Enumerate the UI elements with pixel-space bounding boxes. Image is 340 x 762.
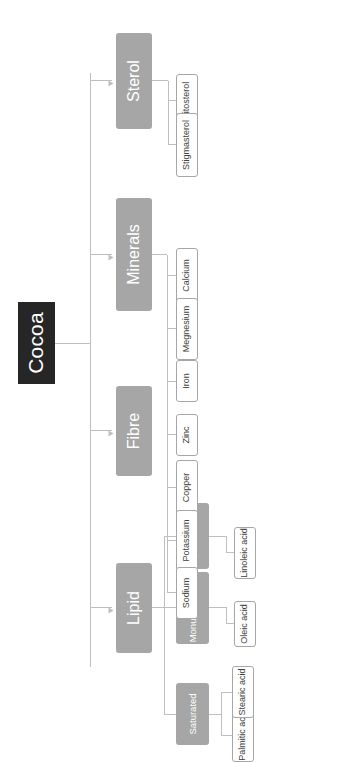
arrow-icon-minerals — [109, 255, 114, 261]
arrow-icon-sterol — [109, 81, 114, 87]
leaf-copper[interactable]: Copper — [176, 460, 198, 515]
connector-drop-polyunsaturated — [164, 536, 176, 537]
leaf-stigmasterol[interactable]: Stigmasterol — [176, 113, 198, 177]
connector-root-bus — [90, 73, 91, 667]
connector-drop-zinc — [167, 434, 176, 435]
connector-root-stem — [54, 343, 90, 344]
leaf-sodium[interactable]: Sodium — [176, 567, 198, 619]
connector-drop-palmitic — [221, 735, 232, 736]
node-sterol[interactable]: Sterol — [116, 33, 152, 129]
connector-polyunsaturated-stem — [209, 536, 226, 537]
connector-drop-stigmasterol — [168, 144, 176, 145]
leaf-oleic-acid-label: Oleic acid — [240, 604, 249, 644]
connector-lipid-stem — [152, 607, 164, 608]
leaf-zinc[interactable]: Zinc — [176, 414, 198, 456]
connector-monunsaturated-bus — [226, 607, 227, 624]
connector-drop-megnesium — [167, 328, 176, 329]
leaf-sodium-label: Sodium — [182, 578, 191, 609]
node-saturated-label: Saturated — [188, 693, 198, 734]
node-lipid-label: Lipid — [126, 591, 143, 625]
connector-drop-calcium — [167, 275, 176, 276]
connector-drop-sitosterol — [168, 100, 176, 101]
leaf-linoleic-acid-label: Linoleic acid — [240, 528, 249, 578]
node-cocoa-label: Cocoa — [25, 312, 47, 374]
connector-monunsaturated-stem — [209, 607, 226, 608]
connector-drop-potassium — [167, 540, 176, 541]
connector-drop-saturated — [164, 714, 176, 715]
connector-drop-iron — [167, 381, 176, 382]
connector-drop-stearic — [221, 692, 232, 693]
connector-saturated-bus — [221, 693, 222, 736]
connector-polyunsaturated-bus — [226, 536, 227, 553]
leaf-potassium-label: Potassium — [182, 519, 191, 561]
connector-lipid-bus — [164, 537, 165, 715]
leaf-copper-label: Copper — [182, 473, 191, 503]
connector-drop-linoleic — [226, 552, 234, 553]
arrow-icon-fibre — [109, 431, 114, 437]
node-lipid[interactable]: Lipid — [116, 563, 152, 653]
connector-drop-sodium — [167, 592, 176, 593]
leaf-linoleic-acid[interactable]: Linoleic acid — [234, 527, 256, 579]
node-saturated[interactable]: Saturated — [176, 683, 209, 745]
leaf-stigmasterol-label: Stigmasterol — [182, 120, 191, 170]
connector-minerals-stem — [152, 254, 167, 255]
node-fibre-label: Fibre — [126, 413, 143, 449]
node-sterol-label: Sterol — [126, 60, 143, 102]
leaf-stearic-acid[interactable]: Stearic acid — [232, 666, 254, 718]
leaf-megnesium[interactable]: Megnesium — [176, 298, 198, 360]
leaf-oleic-acid[interactable]: Oleic acid — [234, 601, 256, 647]
leaf-megnesium-label: Megnesium — [182, 306, 191, 353]
leaf-potassium[interactable]: Potassium — [176, 510, 198, 571]
connector-sterol-bus — [168, 81, 169, 145]
connector-drop-monunsaturated — [164, 607, 176, 608]
connector-sterol-stem — [152, 80, 168, 81]
leaf-stearic-acid-label: Stearic acid — [238, 668, 247, 715]
node-fibre[interactable]: Fibre — [116, 386, 152, 476]
node-minerals[interactable]: Minerals — [116, 198, 152, 311]
connector-saturated-stem — [209, 714, 221, 715]
arrow-icon-lipid — [109, 608, 114, 614]
leaf-calcium-label: Calcium — [182, 259, 191, 292]
node-minerals-label: Minerals — [126, 224, 143, 284]
leaf-iron-label: Iron — [182, 373, 191, 389]
connector-minerals-bus — [167, 255, 168, 593]
node-cocoa-root[interactable]: Cocoa — [18, 302, 55, 384]
connector-drop-copper — [167, 487, 176, 488]
leaf-iron[interactable]: Iron — [176, 360, 198, 402]
connector-drop-oleic — [226, 623, 234, 624]
leaf-zinc-label: Zinc — [182, 427, 191, 444]
leaf-calcium[interactable]: Calcium — [176, 248, 198, 303]
